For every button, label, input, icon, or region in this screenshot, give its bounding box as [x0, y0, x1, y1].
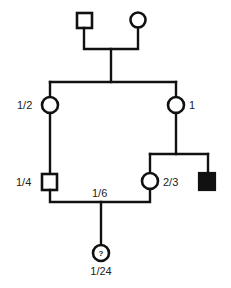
pedigree-diagram: 1/2 1 1/4 2/3 1/6 ? 1/24 [0, 0, 231, 288]
generation-4: ? 1/24 [90, 245, 111, 277]
left-daughter-risk-label: 1/2 [17, 99, 32, 111]
affected-grandson-square [199, 173, 215, 190]
grandfather-square [77, 13, 92, 28]
grandmother-circle [131, 13, 146, 28]
middle-granddaughter-risk-label: 2/3 [163, 176, 178, 188]
unknown-status-icon: ? [99, 249, 104, 258]
left-grandson-risk-label: 1/4 [16, 176, 31, 188]
grandparents-mating-line [84, 28, 138, 49]
proband-risk-label: 1/24 [90, 265, 111, 277]
generation-3: 1/4 2/3 [16, 113, 215, 190]
generation-3-mating: 1/6 [50, 187, 150, 245]
left-grandson-square [42, 174, 57, 190]
middle-granddaughter-circle [142, 173, 158, 189]
generation-1 [50, 13, 176, 83]
generation-2: 1/2 1 [17, 82, 195, 113]
right-daughter-risk-label: 1 [189, 99, 195, 111]
right-daughter-circle [168, 97, 184, 113]
mating-risk-label: 1/6 [92, 187, 107, 199]
left-daughter-circle [42, 97, 58, 113]
